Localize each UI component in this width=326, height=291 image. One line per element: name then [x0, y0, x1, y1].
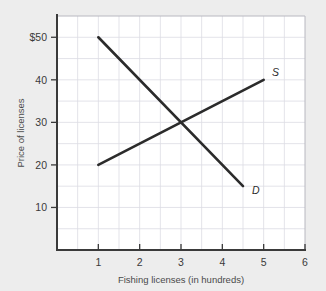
y-tick-label-20: 20 [35, 159, 47, 171]
x-tick-label-6: 6 [302, 256, 308, 268]
y-tick-label-40: 40 [35, 74, 47, 86]
economics-supply-demand-chart: 10 20 30 40 $50 1 2 3 4 5 6 D S Fishing … [0, 0, 326, 291]
x-axis-tick-labels: 1 2 3 4 5 6 [95, 256, 308, 268]
x-tick-label-4: 4 [219, 256, 225, 268]
demand-curve-label: D [252, 184, 260, 196]
y-tick-label-50: $50 [29, 31, 47, 43]
supply-curve-label: S [272, 66, 279, 78]
x-tick-label-2: 2 [137, 256, 143, 268]
y-tick-label-10: 10 [35, 201, 47, 213]
x-tick-label-5: 5 [261, 256, 267, 268]
x-tick-label-3: 3 [178, 256, 184, 268]
y-axis-tick-labels: 10 20 30 40 $50 [29, 31, 47, 213]
x-axis-title: Fishing licenses (in hundreds) [118, 274, 244, 285]
y-axis-title: Price of licenses [15, 98, 26, 167]
chart-canvas: 10 20 30 40 $50 1 2 3 4 5 6 D S Fishing … [0, 0, 326, 291]
x-tick-label-1: 1 [95, 256, 101, 268]
y-tick-label-30: 30 [35, 116, 47, 128]
